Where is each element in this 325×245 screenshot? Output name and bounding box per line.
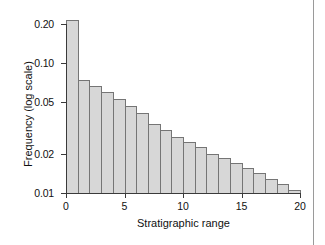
x-tick-label: 5 [122, 200, 128, 212]
y-tick-mark [61, 102, 66, 103]
plot-area [66, 14, 300, 193]
y-axis-title: Frequency (log scale) [22, 34, 34, 194]
y-axis-line [66, 24, 67, 194]
y-tick-mark [61, 63, 66, 64]
y-tick-mark [61, 24, 66, 25]
y-tick-label: 0.01 [34, 187, 54, 199]
x-tick-mark [125, 193, 126, 198]
x-tick-label: 15 [236, 200, 248, 212]
x-axis-title: Stratigraphic range [66, 217, 301, 229]
y-tick-label: 0.05 [34, 96, 54, 108]
y-tick-label: 0.10 [34, 57, 54, 69]
y-tick-mark [61, 154, 66, 155]
y-tick-label: 0.02 [34, 148, 54, 160]
y-tick-label: 0.20 [34, 18, 54, 30]
figure-screenshot: 0.200.100.050.020.01 05101520 Stratigrap… [0, 0, 325, 245]
x-tick-mark [300, 193, 301, 198]
x-tick-mark [242, 193, 243, 198]
x-tick-label: 0 [63, 200, 69, 212]
histogram-figure: 0.200.100.050.020.01 05101520 Stratigrap… [0, 0, 314, 245]
bar-series [66, 14, 300, 193]
x-tick-label: 20 [294, 200, 306, 212]
x-tick-mark [66, 193, 67, 198]
x-tick-label: 10 [177, 200, 189, 212]
x-tick-mark [183, 193, 184, 198]
